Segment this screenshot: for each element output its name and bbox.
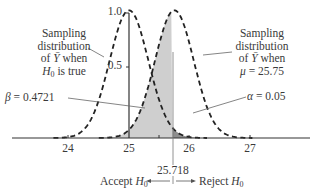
right-curve-label: Sampling distribution of Ȳ when μ = 25.7…: [232, 27, 292, 77]
critical-value-label: 25.718: [157, 164, 189, 177]
left-curve-label: Sampling distribution of Ȳ when H0 is tr…: [36, 27, 92, 81]
alpha-label: α = 0.05: [247, 90, 285, 103]
beta-leader: [68, 98, 145, 108]
x-tick-label-27: 27: [244, 142, 256, 154]
x-tick-label-26: 26: [183, 142, 195, 154]
y-tick-label-1: 1.0: [98, 5, 122, 17]
x-tick-label-25: 25: [123, 142, 135, 154]
alt-curve: [99, 10, 253, 138]
y-tick-label-05: 0.5: [98, 59, 122, 71]
beta-label: β = 0.4721: [5, 91, 55, 104]
reject-h0-label: Reject H0: [199, 175, 244, 192]
alpha-leader: [193, 97, 246, 113]
right-curve-leader: [203, 52, 232, 55]
accept-h0-label: Accept H0: [100, 175, 148, 192]
x-tick-label-24: 24: [62, 142, 74, 154]
reject-arrowhead: [191, 179, 196, 183]
